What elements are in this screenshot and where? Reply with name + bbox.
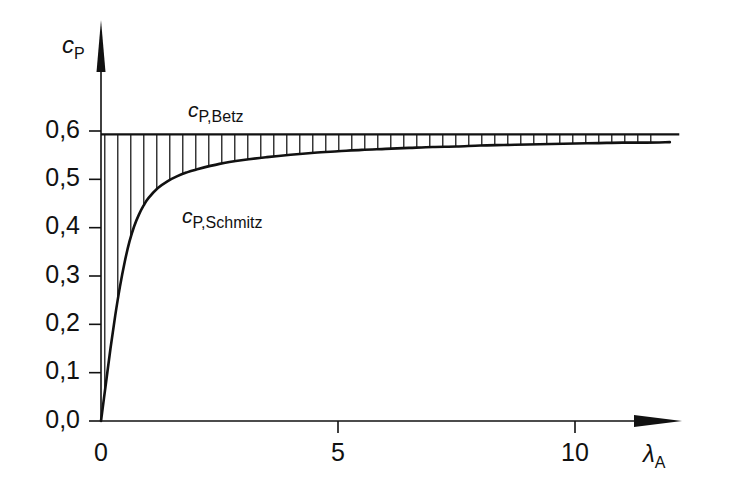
x-axis-title: λA	[641, 440, 666, 471]
y-tick-label: 0,3	[45, 260, 80, 288]
y-axis-title: cP	[62, 31, 85, 62]
y-axis-title-sub: P	[74, 45, 85, 62]
y-axis-title-main: c	[62, 31, 74, 58]
schmitz-label-main: c	[182, 204, 193, 227]
chart-svg: 0,00,10,20,30,40,50,6 0510 cP λA cP,Betz…	[0, 0, 732, 496]
x-tick-label: 10	[561, 438, 589, 466]
y-tick-label: 0,0	[45, 405, 80, 433]
x-axis-arrow-icon	[634, 415, 682, 427]
x-tick-label: 0	[94, 438, 108, 466]
schmitz-label-sub: P,Schmitz	[193, 214, 263, 231]
y-axis-arrow-icon	[97, 20, 106, 72]
betz-label-main: c	[188, 98, 199, 121]
y-axis-tick-labels: 0,00,10,20,30,40,50,6	[45, 115, 80, 433]
betz-curve-label: cP,Betz	[188, 98, 244, 125]
y-tick-label: 0,5	[45, 163, 80, 191]
y-axis-ticks	[89, 131, 101, 421]
y-tick-label: 0,1	[45, 356, 80, 384]
y-tick-label: 0,6	[45, 115, 80, 143]
schmitz-curve-label: cP,Schmitz	[182, 204, 262, 231]
schmitz-power-curve	[101, 142, 670, 421]
x-axis-title-main: λ	[641, 440, 655, 467]
y-tick-label: 0,4	[45, 211, 80, 239]
betz-label-sub: P,Betz	[199, 108, 244, 125]
y-tick-label: 0,2	[45, 308, 80, 336]
x-axis-title-sub: A	[655, 454, 666, 471]
x-axis-ticks	[338, 421, 575, 433]
figure-container: 0,00,10,20,30,40,50,6 0510 cP λA cP,Betz…	[0, 0, 732, 496]
x-axis-tick-labels: 0510	[94, 438, 589, 466]
x-tick-label: 5	[331, 438, 345, 466]
